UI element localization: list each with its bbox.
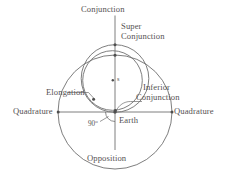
label-quadrature-right: Quadrature	[174, 107, 214, 117]
label-conjunction: Conjunction	[81, 5, 125, 15]
diagram-canvas	[0, 0, 237, 172]
label-inferior-conjunction-line2: Conjunction	[136, 93, 180, 103]
label-elongation: Elongation	[46, 88, 85, 98]
angle-leader-line	[100, 117, 109, 122]
label-sun: s	[117, 75, 120, 82]
label-super-conjunction: Super Conjunction	[121, 22, 179, 42]
label-earth: Earth	[119, 116, 138, 126]
label-super-conjunction-line2: Conjunction	[121, 32, 179, 42]
right-angle-arc	[106, 112, 116, 122]
sun-point	[112, 79, 114, 81]
super-conjunction-point	[114, 43, 117, 46]
inferior-conjunction-point	[114, 109, 117, 112]
elongation-point	[92, 98, 95, 101]
planetary-configurations-diagram: Conjunction Super Conjunction s Inferior…	[0, 0, 237, 172]
label-opposition: Opposition	[87, 154, 126, 164]
degree-symbol: o	[95, 119, 98, 124]
quadrature-left-point	[57, 111, 60, 114]
label-quadrature-left: Quadrature	[13, 107, 53, 117]
label-angle-90: 90o	[88, 119, 98, 128]
conjunction-point	[114, 54, 117, 57]
